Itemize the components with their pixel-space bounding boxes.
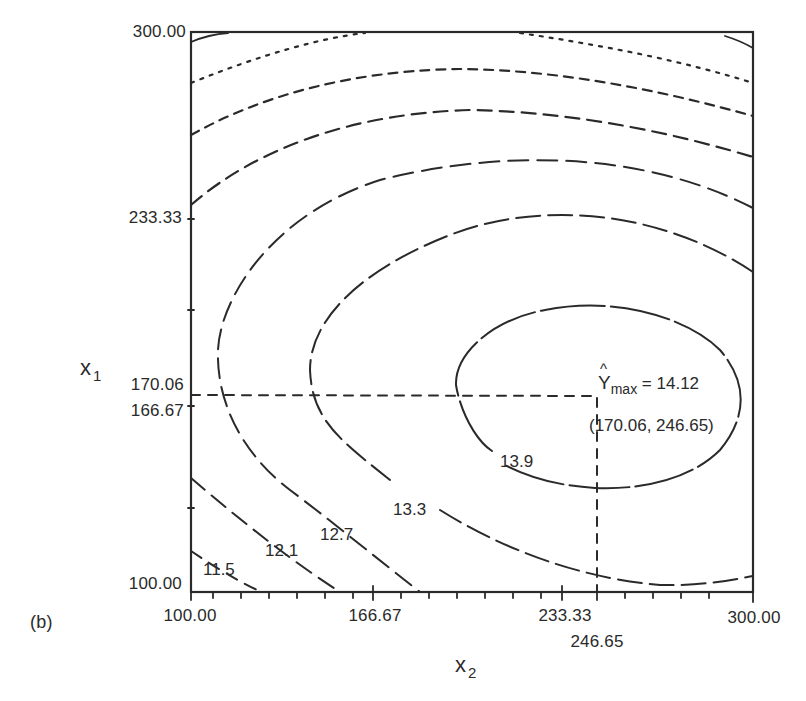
contour-corner-top-left — [191, 33, 228, 42]
x-axis-title: x2 — [455, 652, 476, 681]
y-tick-label-166: 166.67 — [104, 401, 184, 421]
x-tick-label-246: 246.65 — [552, 632, 642, 652]
contour-dotted-outer — [191, 33, 753, 83]
contour-label-13-3: 13.3 — [393, 500, 426, 520]
y-tick-label-233: 233.33 — [102, 208, 182, 228]
panel-label: (b) — [30, 612, 53, 633]
contour-corner-top-right — [725, 36, 753, 48]
plot-frame — [191, 32, 753, 592]
x-axis-title-text: x — [455, 652, 466, 677]
x-tick-label-233: 233.33 — [520, 606, 610, 626]
y-tick-label-170: 170.06 — [104, 375, 184, 395]
ymax-coordinates: (170.06, 246.65) — [589, 416, 714, 436]
contour-label-12-1: 12.1 — [265, 541, 298, 561]
x-tick-label-300: 300.00 — [709, 608, 799, 628]
y-axis-title: x1 — [80, 355, 101, 384]
x-tick-label-100: 100.00 — [145, 606, 235, 626]
contour-13-3 — [310, 215, 753, 585]
x-tick-label-166: 166.67 — [330, 606, 420, 626]
contour-plot-figure: 300.00 233.33 170.06 166.67 100.00 100.0… — [0, 0, 806, 701]
contour-label-13-9: 13.9 — [500, 452, 533, 472]
y-axis-title-subscript: 1 — [93, 367, 101, 384]
y-axis-title-text: x — [80, 355, 91, 380]
contour-plot-canvas — [0, 0, 806, 701]
contour-label-12-7: 12.7 — [320, 525, 353, 545]
y-hat-symbol: Y — [598, 372, 611, 394]
contour-short-dash — [191, 69, 753, 135]
y-tick-label-100: 100.00 — [102, 574, 182, 594]
ymax-annotation: Ymax = 14.12 — [598, 372, 699, 397]
y-tick-label-300: 300.00 — [106, 22, 186, 42]
ymax-subscript: max — [611, 381, 637, 397]
x-axis-title-subscript: 2 — [468, 664, 476, 681]
contour-label-11-5: 11.5 — [203, 560, 235, 580]
max-crosshair-lines — [191, 395, 597, 592]
x-axis-ticks — [191, 586, 753, 602]
contour-medium-dash — [191, 110, 753, 205]
ymax-value: = 14.12 — [637, 374, 699, 393]
